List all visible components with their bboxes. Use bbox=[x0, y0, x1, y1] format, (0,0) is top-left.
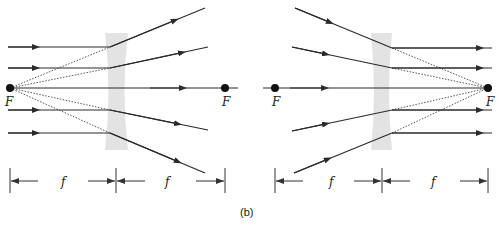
focal-length-label-2: f bbox=[164, 175, 172, 189]
focal-point-back bbox=[484, 84, 492, 92]
focal-length-label-2: f bbox=[430, 175, 438, 189]
left-diagram: F F f f bbox=[4, 8, 238, 193]
focal-length-label-1: f bbox=[60, 175, 68, 189]
lens-ray-diagram: F F f f bbox=[0, 0, 499, 230]
focal-label-back: F bbox=[221, 95, 231, 109]
focal-label-front: F bbox=[4, 95, 14, 109]
focal-point-front bbox=[271, 84, 279, 92]
focal-length-label-1: f bbox=[328, 175, 336, 189]
focal-label-back: F bbox=[485, 95, 495, 109]
focal-point-back bbox=[221, 84, 229, 92]
focal-label-front: F bbox=[271, 95, 281, 109]
focal-point-front bbox=[6, 84, 14, 92]
right-diagram: F F f f bbox=[263, 8, 495, 193]
figure-caption: (b) bbox=[240, 206, 253, 218]
diverging-lens bbox=[371, 33, 392, 150]
